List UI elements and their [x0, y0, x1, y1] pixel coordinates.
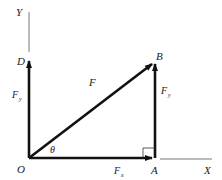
point-b-label: B [156, 50, 163, 62]
svg-text:F: F [113, 165, 121, 176]
fy-left-label: F y [11, 89, 22, 102]
fx-label: F x [113, 165, 124, 178]
point-d-label: D [16, 55, 25, 67]
svg-text:F: F [11, 89, 19, 100]
f-vector-label: F [88, 76, 96, 88]
svg-text:y: y [167, 92, 171, 98]
right-angle-marker [143, 148, 155, 158]
vector-diagram: Y X D O A B F θ F y F y F x [0, 0, 222, 180]
point-o-label: O [17, 163, 25, 175]
x-axis-label: X [203, 164, 212, 176]
svg-text:F: F [160, 85, 168, 96]
svg-text:y: y [18, 96, 22, 102]
svg-text:x: x [120, 172, 124, 178]
fy-right-label: F y [160, 85, 171, 98]
diagram-canvas: Y X D O A B F θ F y F y F x [0, 0, 222, 180]
angle-theta-label: θ [50, 144, 55, 155]
point-a-label: A [150, 164, 158, 176]
y-axis-label: Y [16, 6, 24, 18]
